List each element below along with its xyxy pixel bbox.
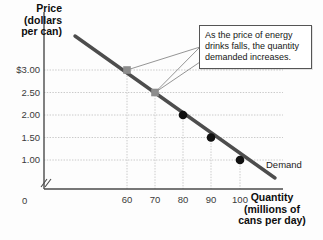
data-point-90 [207,133,216,142]
x-tick-label-70: 70 [142,194,168,205]
x-tick-label-80: 80 [170,194,196,205]
y-tick-label-3-00: $3.00 [0,64,40,75]
annotation-callout: As the price of energy drinks falls, the… [199,25,312,69]
x-axis-title-line-3: cans per day) [222,215,322,227]
y-axis-title-line-3: per can) [0,26,62,38]
x-axis-title: Quantity (millions of cans per day) [222,192,322,227]
y-tick-label-1-00: 1.00 [0,154,40,165]
data-point-70 [151,89,159,97]
origin-label: 0 [22,195,27,206]
y-axis-title-line-1: Price [0,3,62,15]
y-tick-label-2-00: 2.00 [0,109,40,120]
x-tick-label-90: 90 [198,194,224,205]
y-tick-label-2-50: 2.50 [0,87,40,98]
x-axis-title-line-1: Quantity [222,192,322,204]
y-tick-label-1-50: 1.50 [0,132,40,143]
chart-screenshot: Price (dollars per can) $3.00 2.50 2.00 … [0,0,323,240]
demand-series-label: Demand [266,159,302,170]
x-tick-label-60: 60 [114,194,140,205]
axis-break-marks [41,179,51,187]
data-point-100 [236,156,245,165]
annotation-leader-lines [127,47,200,93]
data-point-80 [179,111,188,120]
data-point-60 [123,66,131,74]
y-axis-title: Price (dollars per can) [0,3,62,38]
vertical-gridlines [127,70,240,189]
